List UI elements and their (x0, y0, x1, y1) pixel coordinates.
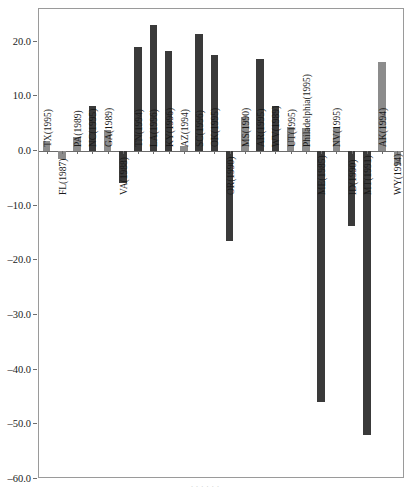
x-tick-mark (321, 151, 322, 154)
y-tick-mark (33, 314, 37, 315)
x-axis-label: AZ(1994) (180, 109, 190, 147)
y-tick-label: –50.0 (7, 418, 31, 429)
x-tick-mark (275, 151, 276, 154)
x-axis-label: MT(1991) (363, 156, 373, 196)
x-tick-mark (108, 151, 109, 154)
y-tick-mark (33, 478, 37, 479)
x-tick-mark (260, 151, 261, 154)
y-tick-mark (33, 369, 37, 370)
x-axis-label: WY(1994) (393, 154, 403, 195)
chart-caption-fragment: · · · · · · (0, 481, 410, 491)
y-tick-mark (33, 41, 37, 42)
y-tick-label: 10.0 (13, 90, 31, 101)
y-tick-label: 20.0 (13, 35, 31, 46)
x-axis-label: AR(1995) (256, 109, 266, 148)
y-tick-label: 0.0 (18, 145, 31, 156)
plot-area: TX(1995)FL(1987)PA(1989)NC(1995)GA(1989)… (38, 8, 404, 478)
y-tick-mark (33, 150, 37, 151)
x-axis-label: AK(1994) (378, 108, 388, 147)
y-tick-mark (33, 259, 37, 260)
x-tick-mark (169, 151, 170, 154)
x-tick-mark (123, 151, 124, 154)
x-tick-mark (199, 151, 200, 154)
x-tick-mark (47, 151, 48, 154)
x-axis-label: PA(1989) (73, 110, 83, 147)
x-axis-label: NC(1995) (88, 109, 98, 148)
y-tick-mark (33, 423, 37, 424)
x-tick-mark (138, 151, 139, 154)
x-axis-label: Philadelphia(1995) (302, 74, 312, 147)
x-tick-mark (367, 151, 368, 154)
x-tick-mark (62, 151, 63, 154)
x-tick-mark (77, 151, 78, 154)
y-tick-label: –20.0 (7, 254, 31, 265)
x-axis-label: ME(1985) (317, 156, 327, 196)
x-tick-mark (382, 151, 383, 154)
x-tick-mark (153, 151, 154, 154)
x-axis-label: NV(1995) (332, 108, 342, 147)
bars-layer: TX(1995)FL(1987)PA(1989)NC(1995)GA(1989)… (39, 9, 403, 477)
y-tick-label: –10.0 (7, 199, 31, 210)
x-axis-label: KY(1996) (165, 108, 175, 147)
x-tick-mark (92, 151, 93, 154)
x-tick-mark (230, 151, 231, 154)
chart-title-fragment: · (0, 0, 410, 4)
x-axis-label: MS(1990) (241, 108, 251, 147)
x-axis-label: SC(1996) (195, 110, 205, 147)
x-axis-label: FL(1987) (58, 159, 68, 195)
x-tick-mark (245, 151, 246, 154)
x-axis-label: VA(1988) (119, 157, 129, 195)
y-tick-label: –30.0 (7, 309, 31, 320)
y-tick-label: –40.0 (7, 363, 31, 374)
x-axis-label: GA(1989) (104, 108, 114, 147)
x-axis-label: LA(1996) (149, 109, 159, 147)
x-tick-mark (336, 151, 337, 154)
x-tick-mark (352, 151, 353, 154)
x-axis-label: TN(1994) (134, 109, 144, 147)
y-tick-mark (33, 205, 37, 206)
x-axis-label: TX(1995) (43, 109, 53, 147)
x-axis-label: OR(1990) (226, 157, 236, 196)
y-axis: 20.010.00.0–10.0–20.0–30.0–40.0–50.0–60.… (0, 8, 38, 478)
x-axis-label: WV(1989) (271, 106, 281, 147)
y-tick-mark (33, 95, 37, 96)
x-axis-label: ID(1990) (348, 160, 358, 195)
x-axis-label: UT(1995) (287, 109, 297, 147)
x-tick-mark (306, 151, 307, 154)
x-tick-mark (214, 151, 215, 154)
x-tick-mark (291, 151, 292, 154)
x-axis-label: OK(1995) (210, 108, 220, 147)
x-tick-mark (184, 151, 185, 154)
